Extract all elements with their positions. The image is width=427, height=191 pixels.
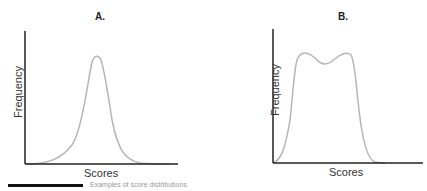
distribution-curve-b [273, 53, 385, 163]
y-axis-label-a: Frequency [12, 66, 24, 118]
x-axis-label-b: Scores [329, 166, 363, 178]
chart-panel-a: A. Frequency Scores [0, 0, 213, 180]
figure-caption: Examples of score distributions [90, 181, 187, 188]
x-axis-label-a: Scores [84, 167, 118, 179]
caption-rule [8, 184, 83, 187]
y-axis-label-b: Frequency [269, 64, 281, 116]
distribution-curve-a [26, 56, 170, 164]
plot-area-b [213, 0, 427, 180]
chart-panel-b: B. Frequency Scores [213, 0, 426, 180]
plot-area-a [0, 0, 213, 180]
